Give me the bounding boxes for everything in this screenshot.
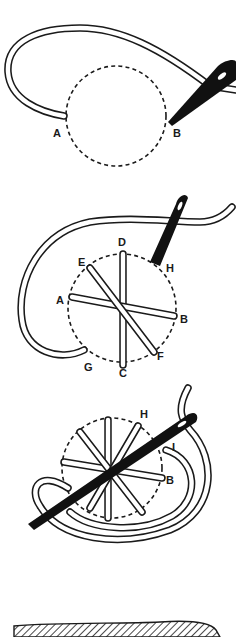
point-label-b: B [173, 127, 181, 139]
point-label-h: H [140, 408, 148, 420]
point-label-a: A [53, 127, 61, 139]
step-2-diagram: D E H A B F G C [21, 195, 232, 379]
stitch-diagram: A B D E H A B F G C [0, 0, 236, 637]
needle-icon [168, 60, 236, 126]
stitch-circle-outline [66, 66, 166, 166]
point-label-f: F [157, 350, 164, 362]
point-label-c: C [119, 367, 127, 379]
point-label-a: A [56, 294, 64, 306]
point-label-g: G [84, 361, 93, 373]
point-label-i: I [172, 441, 175, 453]
point-label-h: H [166, 262, 174, 274]
step-1-diagram: A B [8, 28, 236, 166]
point-label-e: E [78, 256, 85, 268]
point-label-d: D [118, 236, 126, 248]
step-3-diagram: H I B [28, 388, 208, 539]
point-label-b: B [166, 474, 174, 486]
needle-icon [150, 195, 188, 266]
point-label-b: B [180, 313, 188, 325]
fabric-edge-strip [14, 621, 220, 637]
